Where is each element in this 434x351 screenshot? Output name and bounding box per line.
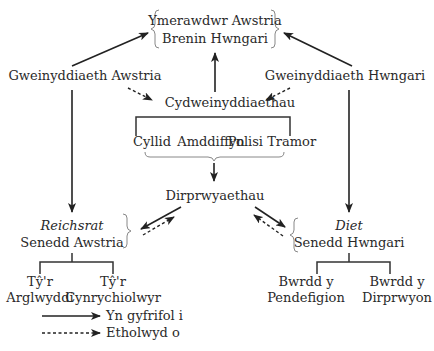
dashed-arrow-austria-to-joint — [128, 88, 152, 100]
austria-houses-tree: Tŷ'r Arglwyddi Tŷ'r Cynrychiolwyr — [5, 253, 161, 305]
emperor-line2: Brenin Hwngari — [162, 31, 268, 46]
legend-solid-label: Yn gyfrifol i — [105, 308, 183, 323]
legend: Yn gyfrifol i Etholwyd o — [42, 308, 183, 340]
board-deputies-line2: Dirprwyon — [362, 290, 433, 305]
ministry-foreign-policy: Polisi Tramor — [228, 134, 317, 149]
house-reps-line1: Tŷ'r — [100, 274, 127, 289]
arrow-hungary-to-emperor — [284, 33, 352, 66]
arrow-delegations-to-diet — [255, 207, 285, 227]
arrow-delegations-to-reichsrat — [141, 207, 181, 229]
joint-ministry: Cydweinyddiaethau — [165, 95, 295, 110]
joint-ministries-tree: Cyllid Amddiffyn Polisi Tramor — [133, 117, 317, 161]
diet-name: Diet — [334, 218, 363, 233]
austria-parliament: Reichsrat Senedd Awstria — [20, 214, 131, 250]
reichsrat-label: Senedd Awstria — [20, 235, 124, 250]
board-nobles-line1: Bwrdd y — [278, 274, 334, 289]
delegations: Dirprwyaethau — [166, 188, 265, 203]
right-brace-icon — [123, 214, 131, 248]
house-reps-line2: Cynrychiolwyr — [65, 290, 161, 305]
ministry-finance: Cyllid — [133, 134, 171, 149]
bottom-brace-icon — [145, 152, 284, 161]
diet-label: Senedd Hwngari — [294, 235, 405, 250]
ministry-hungary: Gweinyddiaeth Hwngari — [265, 68, 425, 83]
emperor-line1: Ymerawdwr Awstria — [147, 13, 282, 28]
house-lords-line2: Arglwyddi — [5, 290, 73, 305]
house-lords-line1: Tŷ'r — [27, 274, 54, 289]
hungary-parliament: Diet Senedd Hwngari — [290, 218, 404, 252]
emperor-node: Ymerawdwr Awstria Brenin Hwngari — [147, 10, 282, 48]
governance-diagram: Ymerawdwr Awstria Brenin Hwngari Gweinyd… — [0, 0, 434, 351]
hungary-houses-tree: Bwrdd y Pendefigion Bwrdd y Dirprwyon — [267, 253, 432, 305]
arrow-austria-to-emperor — [72, 33, 148, 66]
reichsrat-name: Reichsrat — [39, 218, 104, 233]
board-nobles-line2: Pendefigion — [267, 290, 345, 305]
board-deputies-line1: Bwrdd y — [369, 274, 425, 289]
dashed-arrow-diet-to-delegations — [254, 215, 283, 236]
ministry-austria: Gweinyddiaeth Awstria — [8, 68, 161, 83]
legend-dashed-label: Etholwyd o — [106, 325, 180, 340]
